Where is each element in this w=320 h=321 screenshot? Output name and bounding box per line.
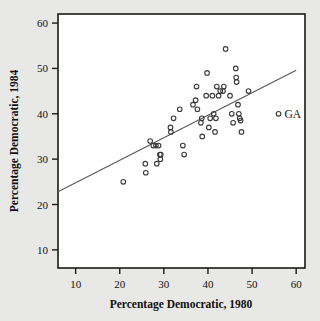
plot-canvas: 102030405060 102030405060 GA Percentage … xyxy=(0,0,320,321)
x-tick-label: 50 xyxy=(247,278,259,290)
y-tick-label: 40 xyxy=(37,108,49,120)
x-tick-label: 60 xyxy=(291,278,303,290)
x-axis-title: Percentage Democratic, 1980 xyxy=(110,298,253,311)
y-tick-label: 20 xyxy=(37,199,49,211)
scatter-plot-figure: 102030405060 102030405060 GA Percentage … xyxy=(0,0,320,321)
x-tick-label: 10 xyxy=(70,278,82,290)
data-point-labels: GA xyxy=(285,108,302,120)
y-axis-title: Percentage Democratic, 1984 xyxy=(8,69,21,212)
x-tick-label: 30 xyxy=(158,278,170,290)
y-tick-label: 50 xyxy=(37,62,49,74)
y-tick-label: 30 xyxy=(37,153,49,165)
x-tick-label: 40 xyxy=(202,278,214,290)
plot-frame xyxy=(58,14,305,268)
y-tick-label: 60 xyxy=(37,17,49,29)
x-tick-label: 20 xyxy=(114,278,126,290)
y-tick-label: 10 xyxy=(37,244,49,256)
data-point-label-ga: GA xyxy=(285,108,302,120)
